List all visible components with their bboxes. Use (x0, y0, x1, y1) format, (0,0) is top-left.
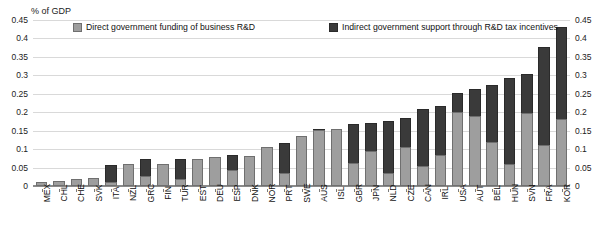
bar-slot[interactable] (380, 20, 397, 186)
bar-stack[interactable] (348, 124, 359, 186)
bar-segment-indirect[interactable] (175, 159, 186, 179)
bar-stack[interactable] (538, 47, 549, 186)
bar-slot[interactable] (414, 20, 431, 186)
bar-stack[interactable] (504, 78, 515, 186)
bar-stack[interactable] (123, 164, 134, 187)
bar-slot[interactable] (466, 20, 483, 186)
bar-segment-indirect[interactable] (140, 159, 151, 176)
bar-stack[interactable] (556, 27, 567, 186)
bar-segment-indirect[interactable] (486, 85, 497, 142)
bar-segment-indirect[interactable] (469, 89, 480, 116)
bar-segment-direct[interactable] (504, 164, 515, 186)
bar-segment-indirect[interactable] (348, 124, 359, 162)
x-label-slot: SVN (518, 189, 535, 235)
bar-stack[interactable] (486, 85, 497, 186)
bar-stack[interactable] (140, 159, 151, 186)
bar-slot[interactable] (310, 20, 327, 186)
bar-segment-indirect[interactable] (417, 109, 428, 166)
bar-stack[interactable] (521, 74, 532, 186)
bar-segment-indirect[interactable] (400, 118, 411, 148)
bar-stack[interactable] (296, 136, 307, 186)
bar-segment-direct[interactable] (313, 130, 324, 186)
bar-segment-indirect[interactable] (383, 121, 394, 173)
bar-segment-direct[interactable] (400, 147, 411, 186)
bar-segment-direct[interactable] (123, 164, 134, 187)
bar-stack[interactable] (192, 159, 203, 186)
bar-slot[interactable] (518, 20, 535, 186)
bar-slot[interactable] (449, 20, 466, 186)
bar-segment-direct[interactable] (452, 112, 463, 186)
bar-segment-indirect[interactable] (556, 27, 567, 119)
bar-slot[interactable] (536, 20, 553, 186)
bar-segment-direct[interactable] (296, 136, 307, 186)
bar-stack[interactable] (417, 109, 428, 186)
bar-segment-direct[interactable] (331, 129, 342, 186)
bar-slot[interactable] (276, 20, 293, 186)
x-label-slot: ISL (328, 189, 345, 235)
bar-segment-indirect[interactable] (365, 123, 376, 151)
bar-stack[interactable] (469, 89, 480, 186)
bar-stack[interactable] (105, 165, 116, 186)
bar-slot[interactable] (397, 20, 414, 186)
bar-slot[interactable] (258, 20, 275, 186)
bar-segment-direct[interactable] (417, 166, 428, 186)
bar-slot[interactable] (68, 20, 85, 186)
bar-slot[interactable] (501, 20, 518, 186)
bar-stack[interactable] (365, 123, 376, 186)
bar-stack[interactable] (157, 164, 168, 187)
bar-slot[interactable] (85, 20, 102, 186)
bar-slot[interactable] (172, 20, 189, 186)
bar-stack[interactable] (435, 106, 446, 186)
bar-segment-direct[interactable] (469, 116, 480, 186)
bar-slot[interactable] (224, 20, 241, 186)
bar-segment-indirect[interactable] (435, 106, 446, 154)
bar-segment-direct[interactable] (348, 163, 359, 186)
bar-slot[interactable] (345, 20, 362, 186)
bar-segment-direct[interactable] (486, 142, 497, 186)
bar-slot[interactable] (553, 20, 570, 186)
bar-segment-direct[interactable] (521, 113, 532, 186)
bar-segment-direct[interactable] (157, 164, 168, 187)
bar-segment-direct[interactable] (538, 145, 549, 186)
bar-stack[interactable] (261, 147, 272, 186)
bar-segment-direct[interactable] (244, 156, 255, 186)
bar-slot[interactable] (484, 20, 501, 186)
bar-segment-indirect[interactable] (105, 165, 116, 182)
bar-segment-indirect[interactable] (279, 143, 290, 173)
bar-stack[interactable] (244, 156, 255, 186)
bar-segment-direct[interactable] (209, 157, 220, 186)
bar-slot[interactable] (206, 20, 223, 186)
bar-segment-direct[interactable] (556, 119, 567, 186)
bar-stack[interactable] (209, 157, 220, 186)
bar-segment-direct[interactable] (192, 159, 203, 186)
bar-slot[interactable] (293, 20, 310, 186)
bar-slot[interactable] (33, 20, 50, 186)
bar-segment-indirect[interactable] (227, 155, 238, 170)
bar-stack[interactable] (383, 121, 394, 186)
bar-slot[interactable] (137, 20, 154, 186)
bar-segment-direct[interactable] (435, 155, 446, 186)
bar-stack[interactable] (400, 118, 411, 186)
bar-stack[interactable] (175, 159, 186, 186)
bar-slot[interactable] (154, 20, 171, 186)
bar-segment-direct[interactable] (261, 147, 272, 186)
bar-segment-direct[interactable] (365, 151, 376, 186)
legend-swatch-indirect-icon (329, 23, 338, 32)
bar-stack[interactable] (279, 143, 290, 186)
bar-segment-indirect[interactable] (504, 78, 515, 164)
bar-segment-indirect[interactable] (538, 47, 549, 145)
bar-slot[interactable] (50, 20, 67, 186)
bar-slot[interactable] (432, 20, 449, 186)
bar-stack[interactable] (452, 93, 463, 186)
bar-slot[interactable] (102, 20, 119, 186)
bar-segment-indirect[interactable] (521, 74, 532, 113)
bar-stack[interactable] (227, 155, 238, 186)
bar-slot[interactable] (362, 20, 379, 186)
bar-stack[interactable] (331, 129, 342, 186)
bar-slot[interactable] (189, 20, 206, 186)
bar-segment-indirect[interactable] (452, 93, 463, 112)
bar-stack[interactable] (313, 129, 324, 186)
bar-slot[interactable] (120, 20, 137, 186)
bar-slot[interactable] (328, 20, 345, 186)
bar-slot[interactable] (241, 20, 258, 186)
